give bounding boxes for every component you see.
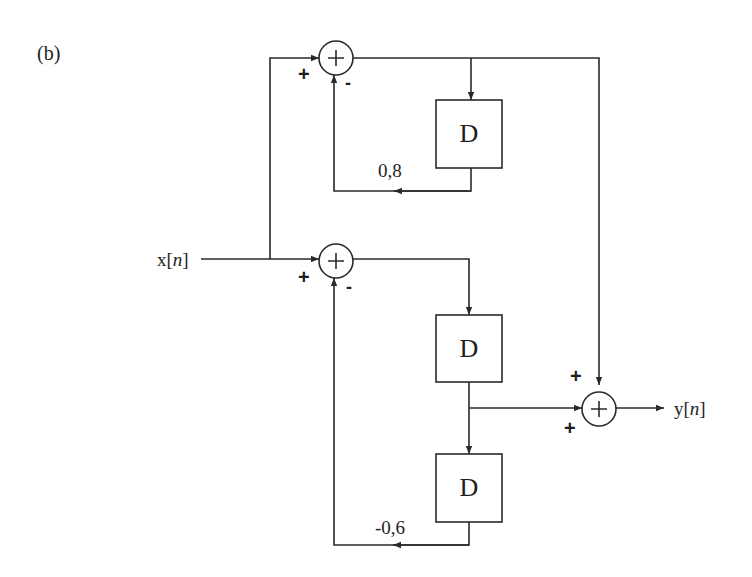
bottom-feedback-gain: -0,6 (375, 518, 405, 537)
block-diagram (0, 0, 752, 577)
output-adder-left-sign: + (564, 418, 576, 438)
lower-adder-bottom-sign: - (346, 278, 352, 296)
delay-3-label: D (436, 475, 502, 501)
output-label: y[n] (674, 399, 706, 418)
delay-2-label: D (436, 336, 502, 362)
output-adder-top-sign: + (570, 366, 582, 386)
lower-adder-output (353, 259, 469, 315)
input-label: x[n] (157, 250, 189, 269)
top-feedback-gain: 0,8 (378, 161, 402, 180)
top-adder-bottom-sign: - (345, 74, 351, 92)
delay-1-label: D (436, 121, 502, 147)
top-adder-left-sign: + (298, 64, 310, 84)
lower-adder-left-sign: + (298, 267, 310, 287)
figure-label: (b) (37, 43, 60, 63)
branch-to-top-adder (270, 58, 319, 259)
